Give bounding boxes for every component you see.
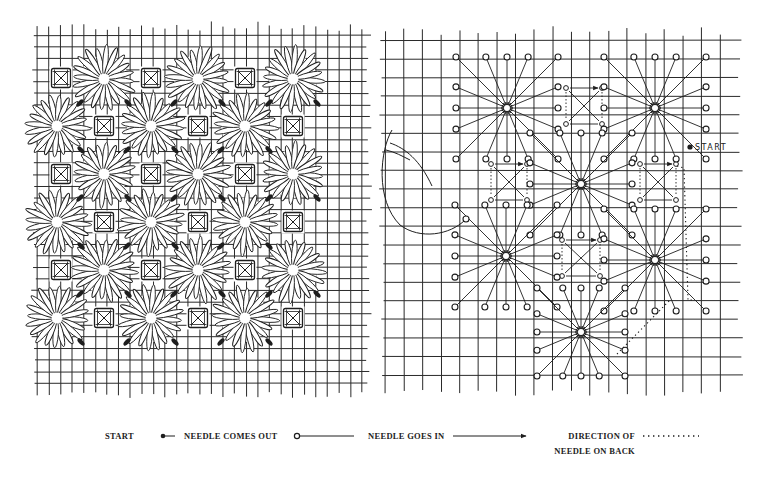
needle-out-point xyxy=(482,202,488,208)
cross-square-stitch xyxy=(93,211,116,234)
needle-out-point xyxy=(578,232,584,238)
needle-out-point xyxy=(601,236,607,242)
needle-out-point xyxy=(504,54,510,60)
needle-out-point xyxy=(534,347,540,353)
needle-out-point xyxy=(703,257,709,263)
needle-out-point xyxy=(504,156,510,162)
needle-out-point xyxy=(560,373,566,379)
needle-out-point xyxy=(673,308,679,314)
needle-out-point xyxy=(601,105,607,111)
needle-out-point xyxy=(601,257,607,263)
needle-out-point xyxy=(452,274,458,280)
needle-out-point xyxy=(596,373,602,379)
eye-stitch-star xyxy=(601,206,709,314)
cross-square-stitch xyxy=(50,67,73,90)
start-label: START xyxy=(695,143,727,152)
needlepoint-diagram: START xyxy=(0,0,760,478)
needle-out-point xyxy=(601,278,607,284)
needle-out-point xyxy=(703,54,709,60)
needle-out-point xyxy=(631,206,637,212)
needle-out-point xyxy=(482,304,488,310)
thread-icon xyxy=(382,130,465,234)
needle-out-point xyxy=(703,126,709,132)
needle-out-point xyxy=(534,311,540,317)
needle-out-point xyxy=(578,285,584,291)
needle-out-point xyxy=(578,373,584,379)
needle-out-point xyxy=(503,304,509,310)
needle-out-point xyxy=(483,156,489,162)
cross-square-stitch xyxy=(93,115,116,138)
needle-out-point xyxy=(578,130,584,136)
filler-oval xyxy=(312,98,321,107)
cross-square-stitch xyxy=(93,307,116,330)
needle-out-point xyxy=(554,253,560,259)
needle-out-point xyxy=(534,285,540,291)
needle-out-point xyxy=(703,308,709,314)
cross-square-stitch xyxy=(50,163,73,186)
needle-out-point xyxy=(453,54,459,60)
needle-out-point xyxy=(703,236,709,242)
needle-out-point xyxy=(557,130,563,136)
cross-box-diagram xyxy=(638,162,679,203)
needle-out-point xyxy=(629,181,635,187)
eye-stitch-star xyxy=(453,54,561,162)
needle-out-point xyxy=(527,232,533,238)
needle-out-point xyxy=(622,347,628,353)
needle-out-point xyxy=(673,156,679,162)
needle-out-point xyxy=(503,202,509,208)
needle-out-point xyxy=(631,54,637,60)
cross-box-diagram xyxy=(489,162,530,203)
needle-out-point xyxy=(527,130,533,136)
eye-stitch-star xyxy=(527,130,635,238)
cross-square-stitch xyxy=(187,115,210,138)
cross-square-stitch xyxy=(282,211,305,234)
needle-out-point xyxy=(453,156,459,162)
needle-out-point xyxy=(599,130,605,136)
needle-out-point xyxy=(703,278,709,284)
needle-out-point xyxy=(601,84,607,90)
needle-out-point xyxy=(652,54,658,60)
needle-out-point xyxy=(555,105,561,111)
needle-out-point xyxy=(622,373,628,379)
back-direction-path xyxy=(617,300,670,354)
legend-needle-in-label: NEEDLE GOES IN xyxy=(368,431,444,441)
needle-out-point xyxy=(452,232,458,238)
needle-out-point xyxy=(596,285,602,291)
needle-out-point xyxy=(703,156,709,162)
cross-box-diagram xyxy=(560,238,603,279)
needle-out-point xyxy=(652,308,658,314)
back-direction-path xyxy=(677,166,692,300)
needle-out-point xyxy=(601,206,607,212)
start-point-icon xyxy=(687,144,692,149)
needle-out-symbol-icon xyxy=(294,433,354,438)
cross-square-stitch xyxy=(140,259,163,282)
needle-out-point xyxy=(703,105,709,111)
needle-out-point xyxy=(629,130,635,136)
cross-square-stitch xyxy=(282,115,305,138)
needle-out-point xyxy=(555,54,561,60)
needle-out-point xyxy=(527,160,533,166)
needle-out-point xyxy=(524,202,530,208)
needle-out-point xyxy=(524,304,530,310)
needle-out-point xyxy=(534,373,540,379)
cross-square-stitch xyxy=(140,67,163,90)
needle-out-point xyxy=(673,54,679,60)
legend-direction-label-line2: NEEDLE ON BACK xyxy=(548,446,635,456)
needle-out-point xyxy=(703,84,709,90)
needle-out-point xyxy=(554,202,560,208)
cross-box-diagram xyxy=(564,86,605,127)
needle-out-point xyxy=(555,84,561,90)
needle-out-point xyxy=(703,206,709,212)
legend-direction-label-line1: DIRECTION OF xyxy=(548,431,635,441)
needle-out-point xyxy=(622,311,628,317)
start-symbol-icon xyxy=(161,434,175,439)
finished-stitch-pattern-panel xyxy=(25,21,372,397)
cross-square-stitch xyxy=(234,163,257,186)
needle-out-point xyxy=(631,308,637,314)
needle-out-point xyxy=(534,329,540,335)
cross-square-stitch xyxy=(140,163,163,186)
legend-start-label: START xyxy=(105,431,134,441)
cross-square-stitch xyxy=(187,307,210,330)
needle-icon xyxy=(386,143,432,186)
filler-oval xyxy=(169,98,178,107)
